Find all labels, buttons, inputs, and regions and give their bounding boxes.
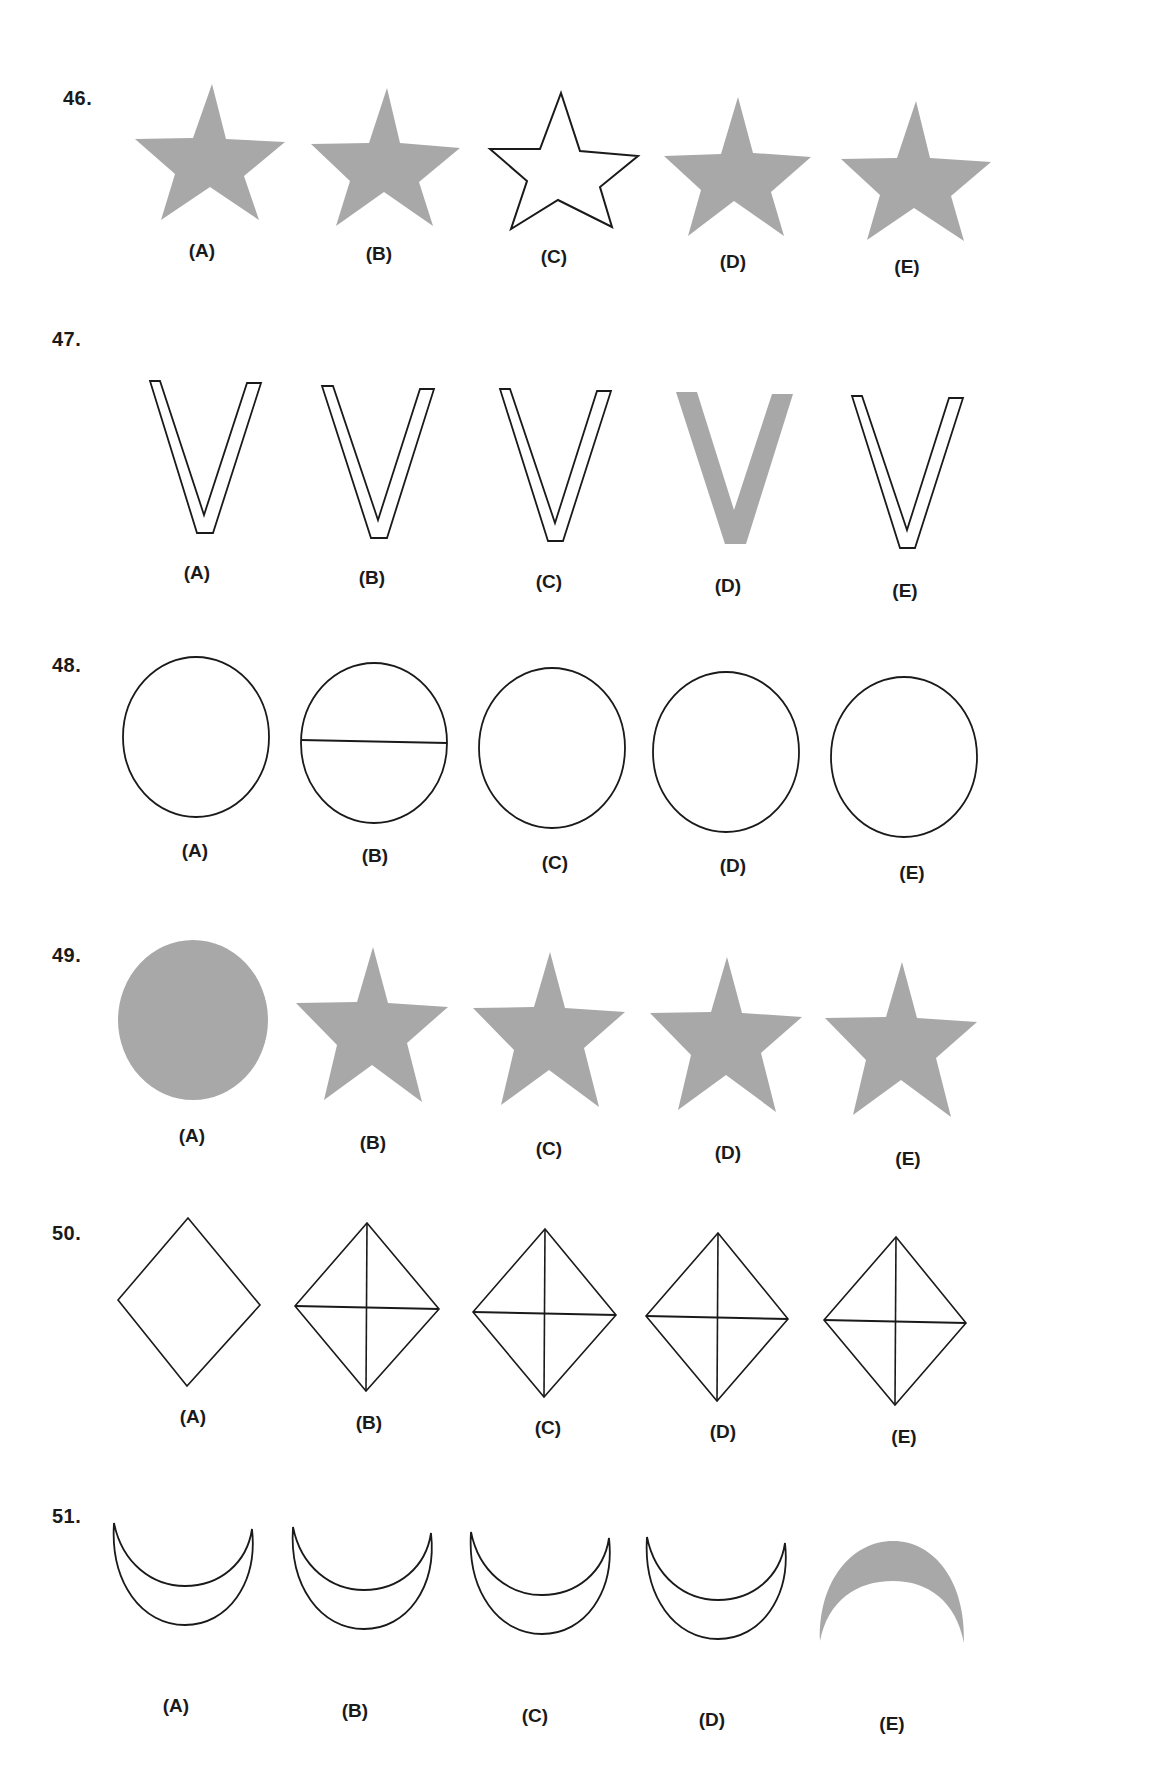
q47-label-a: (A)	[167, 562, 227, 584]
q47-label-b: (B)	[342, 567, 402, 589]
q51-label-a: (A)	[146, 1695, 206, 1717]
crescent-icon	[645, 1537, 790, 1647]
crescent-icon	[112, 1523, 257, 1633]
q49-label-c: (C)	[519, 1138, 579, 1160]
q47-label-d: (D)	[698, 575, 758, 597]
q46-option-a-star-filled[interactable]	[135, 84, 295, 304]
circle-with-line-icon	[300, 662, 450, 827]
diamond-icon	[118, 1218, 263, 1388]
q50-option-c-diamond-cross[interactable]	[473, 1229, 633, 1449]
question-number-49: 49.	[52, 944, 81, 967]
q46-option-b-star-filled[interactable]	[311, 88, 471, 308]
v-shape-icon	[322, 386, 442, 546]
q49-label-b: (B)	[343, 1132, 403, 1154]
diamond-with-cross-icon	[646, 1233, 791, 1403]
star-icon	[664, 97, 814, 237]
q46-option-d-star-filled[interactable]	[664, 97, 824, 317]
question-number-47: 47.	[52, 328, 81, 351]
q51-label-d: (D)	[682, 1709, 742, 1731]
star-icon	[825, 962, 977, 1122]
v-shape-icon	[852, 396, 972, 556]
v-shape-icon	[500, 389, 620, 549]
question-number-48: 48.	[52, 654, 81, 677]
q46-label-c: (C)	[524, 246, 584, 268]
q46-label-a: (A)	[172, 240, 232, 262]
circle-filled-icon	[118, 940, 268, 1105]
crescent-filled-icon	[820, 1541, 965, 1651]
q48-label-d: (D)	[703, 855, 763, 877]
star-icon	[473, 952, 625, 1112]
question-number-50: 50.	[52, 1222, 81, 1245]
star-icon	[311, 88, 461, 228]
v-shape-icon	[150, 381, 270, 541]
q46-label-b: (B)	[349, 243, 409, 265]
q48-label-c: (C)	[525, 852, 585, 874]
diamond-with-cross-icon	[295, 1223, 440, 1393]
star-icon	[841, 101, 991, 241]
q47-label-c: (C)	[519, 571, 579, 593]
question-number-51: 51.	[52, 1505, 81, 1528]
q48-label-a: (A)	[165, 840, 225, 862]
diamond-with-cross-icon	[824, 1237, 969, 1407]
q50-label-a: (A)	[163, 1406, 223, 1428]
q49-label-a: (A)	[162, 1125, 222, 1147]
q51-label-b: (B)	[325, 1700, 385, 1722]
star-icon	[650, 957, 802, 1117]
q46-option-e-star-filled[interactable]	[841, 101, 1001, 321]
q50-option-e-diamond-cross[interactable]	[824, 1237, 984, 1457]
q50-option-d-diamond-cross[interactable]	[646, 1233, 806, 1453]
q50-option-a-diamond-outline[interactable]	[118, 1218, 278, 1438]
q50-option-b-diamond-cross[interactable]	[295, 1223, 455, 1443]
q51-label-e: (E)	[862, 1713, 922, 1735]
q50-label-c: (C)	[518, 1417, 578, 1439]
q48-label-b: (B)	[345, 845, 405, 867]
question-number-46: 46.	[63, 87, 92, 110]
q46-option-c-star-outline[interactable]	[490, 93, 650, 313]
q47-label-e: (E)	[875, 580, 935, 602]
star-icon	[490, 93, 640, 233]
q46-label-d: (D)	[703, 251, 763, 273]
v-shape-icon	[676, 392, 796, 552]
q50-label-d: (D)	[693, 1421, 753, 1443]
circle-icon	[652, 672, 802, 837]
circle-icon	[830, 677, 980, 842]
circle-icon	[122, 657, 272, 807]
crescent-icon	[469, 1532, 614, 1642]
crescent-icon	[291, 1527, 436, 1637]
q49-label-e: (E)	[878, 1148, 938, 1170]
diamond-with-cross-icon	[473, 1229, 618, 1399]
q48-label-e: (E)	[882, 862, 942, 884]
q46-label-e: (E)	[877, 256, 937, 278]
circle-icon	[478, 668, 628, 833]
q50-label-b: (B)	[339, 1412, 399, 1434]
star-icon	[135, 84, 285, 224]
star-icon	[296, 947, 448, 1107]
q49-label-d: (D)	[698, 1142, 758, 1164]
q50-label-e: (E)	[874, 1426, 934, 1448]
q51-label-c: (C)	[505, 1705, 565, 1727]
